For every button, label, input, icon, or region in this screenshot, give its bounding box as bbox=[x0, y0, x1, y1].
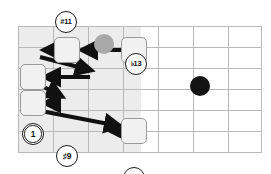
note-marker-grey[interactable] bbox=[94, 34, 114, 54]
grid-line-v bbox=[18, 26, 19, 152]
grid-line-v bbox=[228, 26, 229, 152]
grid-line-v bbox=[88, 26, 89, 152]
note-marker-label: ♯9 bbox=[63, 152, 72, 161]
note-marker-labeled[interactable]: ♯9 bbox=[123, 167, 145, 174]
note-marker-labeled[interactable]: 1 bbox=[22, 123, 44, 145]
note-marker-labeled[interactable]: ♭13 bbox=[125, 53, 147, 75]
marker-highlight-box bbox=[54, 37, 80, 63]
grid-line-h bbox=[18, 110, 262, 111]
note-marker-label: ♭13 bbox=[131, 60, 142, 67]
marker-highlight-box bbox=[20, 64, 46, 90]
grid-line-v bbox=[158, 26, 159, 152]
fretboard-diagram: #11♭131♯9♯9m31♯9#11♭135♭9♯9 bbox=[0, 0, 271, 174]
grid-line-h bbox=[18, 89, 262, 90]
note-marker-filled[interactable] bbox=[190, 76, 210, 96]
note-marker-labeled[interactable]: ♯9 bbox=[56, 145, 78, 167]
marker-highlight-box bbox=[121, 118, 147, 144]
grid-line-h bbox=[18, 152, 262, 153]
marker-highlight-box bbox=[20, 90, 46, 116]
note-marker-inner-ring bbox=[24, 125, 41, 142]
grid-line-h bbox=[18, 26, 262, 27]
grid-line-v bbox=[261, 26, 262, 152]
note-marker-labeled[interactable]: #11 bbox=[55, 11, 77, 33]
note-marker-label: #11 bbox=[60, 18, 71, 25]
